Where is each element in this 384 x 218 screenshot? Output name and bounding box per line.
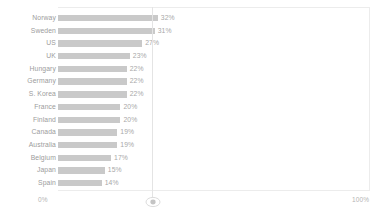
bar-row[interactable]: Spain14%: [0, 177, 384, 190]
bar-value-label: 22%: [130, 88, 144, 101]
bar-row[interactable]: Canada19%: [0, 126, 384, 139]
bar-track: 31%: [58, 25, 370, 38]
bar-track: 22%: [58, 88, 370, 101]
bar-value-label: 22%: [130, 75, 144, 88]
bar-fill[interactable]: [58, 78, 127, 84]
bar-category-label: Hungary: [30, 63, 56, 76]
bar-row[interactable]: Belgium17%: [0, 152, 384, 165]
bar-fill[interactable]: [58, 66, 127, 72]
bar-value-label: 32%: [161, 12, 175, 25]
bar-fill[interactable]: [58, 167, 105, 173]
bar-fill[interactable]: [58, 142, 117, 148]
bar-value-label: 14%: [105, 177, 119, 190]
bar-row[interactable]: Germany22%: [0, 75, 384, 88]
bar-category-label: France: [34, 101, 56, 114]
bar-value-label: 31%: [158, 25, 172, 38]
bar-category-label: US: [46, 37, 56, 50]
bar-fill[interactable]: [58, 28, 155, 34]
bar-rows-container: Norway32%Sweden31%US27%UK23%Hungary22%Ge…: [0, 12, 384, 190]
bar-fill[interactable]: [58, 180, 102, 186]
bar-row[interactable]: Hungary22%: [0, 63, 384, 76]
bar-track: 15%: [58, 164, 370, 177]
horizontal-bar-chart: Norway32%Sweden31%US27%UK23%Hungary22%Ge…: [0, 0, 384, 218]
bar-value-label: 22%: [130, 63, 144, 76]
bar-value-label: 15%: [108, 164, 122, 177]
bar-fill[interactable]: [58, 155, 111, 161]
bar-track: 27%: [58, 37, 370, 50]
bar-category-label: Finland: [33, 114, 56, 127]
bar-track: 23%: [58, 50, 370, 63]
bar-value-label: 19%: [120, 126, 134, 139]
bar-fill[interactable]: [58, 117, 120, 123]
resize-handle-icon[interactable]: [145, 194, 161, 206]
bar-value-label: 17%: [114, 152, 128, 165]
bar-value-label: 23%: [133, 50, 147, 63]
bar-track: 14%: [58, 177, 370, 190]
bar-row[interactable]: US27%: [0, 37, 384, 50]
bar-category-label: Spain: [38, 177, 56, 190]
bar-value-label: 20%: [123, 114, 137, 127]
bar-track: 32%: [58, 12, 370, 25]
bar-row[interactable]: UK23%: [0, 50, 384, 63]
x-axis-tick-label-min: 0%: [38, 196, 48, 203]
bar-category-label: Belgium: [31, 152, 56, 165]
bar-fill[interactable]: [58, 53, 130, 59]
bar-row[interactable]: Australia19%: [0, 139, 384, 152]
bar-track: 20%: [58, 114, 370, 127]
bar-fill[interactable]: [58, 104, 120, 110]
bar-value-label: 19%: [120, 139, 134, 152]
bar-track: 20%: [58, 101, 370, 114]
bar-track: 17%: [58, 152, 370, 165]
bar-category-label: Norway: [32, 12, 56, 25]
bar-category-label: S. Korea: [29, 88, 56, 101]
bar-track: 22%: [58, 63, 370, 76]
bar-row[interactable]: Japan15%: [0, 164, 384, 177]
bar-fill[interactable]: [58, 91, 127, 97]
bar-category-label: Sweden: [31, 25, 56, 38]
bar-row[interactable]: Sweden31%: [0, 25, 384, 38]
bar-category-label: Australia: [29, 139, 56, 152]
bar-track: 19%: [58, 139, 370, 152]
bar-category-label: Japan: [37, 164, 56, 177]
bar-category-label: UK: [46, 50, 56, 63]
bar-track: 19%: [58, 126, 370, 139]
x-axis-line: [58, 190, 370, 191]
bar-fill[interactable]: [58, 15, 158, 21]
bar-fill[interactable]: [58, 129, 117, 135]
bar-row[interactable]: France20%: [0, 101, 384, 114]
bar-row[interactable]: Norway32%: [0, 12, 384, 25]
bar-track: 22%: [58, 75, 370, 88]
vertical-reference-line: [152, 7, 153, 197]
bar-row[interactable]: S. Korea22%: [0, 88, 384, 101]
bar-category-label: Germany: [27, 75, 56, 88]
bar-category-label: Canada: [32, 126, 56, 139]
bar-value-label: 20%: [123, 101, 137, 114]
bar-fill[interactable]: [58, 40, 142, 46]
x-axis-tick-label-max: 100%: [352, 196, 369, 203]
bar-row[interactable]: Finland20%: [0, 114, 384, 127]
